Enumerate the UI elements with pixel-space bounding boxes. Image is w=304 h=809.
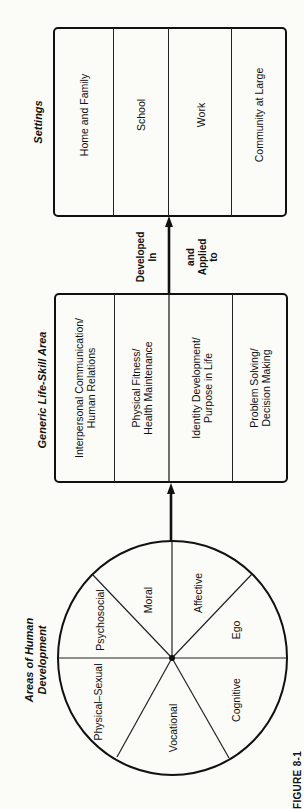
segment-cognitive: Cognitive [230,678,242,722]
segment-moral: Moral [142,587,154,613]
segment-vocational: Vocational [167,704,179,752]
title-line: Areas of Human [23,618,36,702]
human-development-title: Areas of Human Development [23,618,48,702]
segment-psychosocial: Psychosocial [94,589,106,650]
title-line: Development [36,618,49,702]
segment-physical-sexual: Physical–Sexual [92,663,104,740]
arrow-up-icon [167,483,175,541]
segment-affective: Affective [192,573,204,613]
arrow-up-icon [165,216,173,482]
figure-label: FIGURE 8-1 [292,751,304,809]
segment-ego: Ego [230,621,242,640]
